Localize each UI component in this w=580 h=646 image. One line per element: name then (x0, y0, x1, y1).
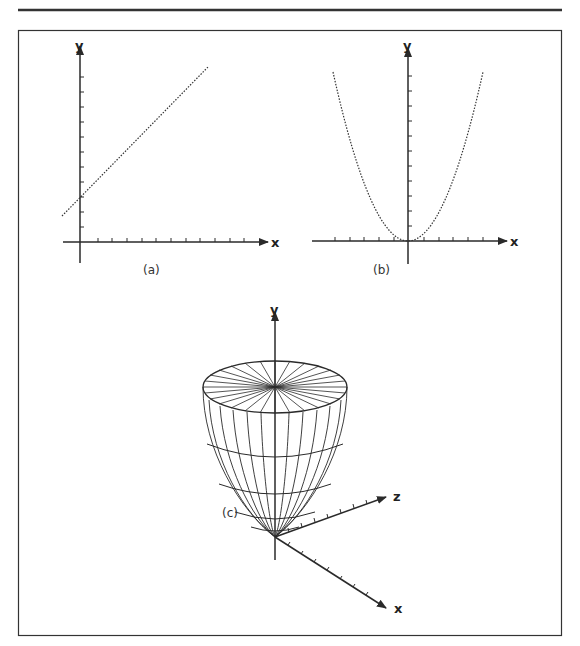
panel-caption: (a) (143, 263, 160, 277)
y-axis-label: y (75, 38, 84, 53)
panel-a: y x (a) (62, 38, 280, 277)
linear-curve (62, 67, 208, 216)
panel-caption: (c) (222, 506, 238, 520)
panel-b: y x (b) (312, 38, 519, 277)
z-axis (275, 497, 386, 537)
x-ticks (288, 542, 368, 595)
x-axis-label: x (510, 234, 519, 249)
x-axis (275, 537, 386, 608)
y-axis-label: y (270, 302, 279, 317)
figure-frame (19, 31, 562, 636)
panel-c (203, 312, 386, 608)
z-axis-label: z (393, 489, 401, 504)
x-axis-label: x (394, 601, 403, 616)
panel-caption: (b) (373, 263, 390, 277)
x-axis-label: x (271, 235, 280, 250)
figure: y x (a) y x (b) (0, 0, 580, 646)
y-axis-label: y (403, 38, 412, 53)
